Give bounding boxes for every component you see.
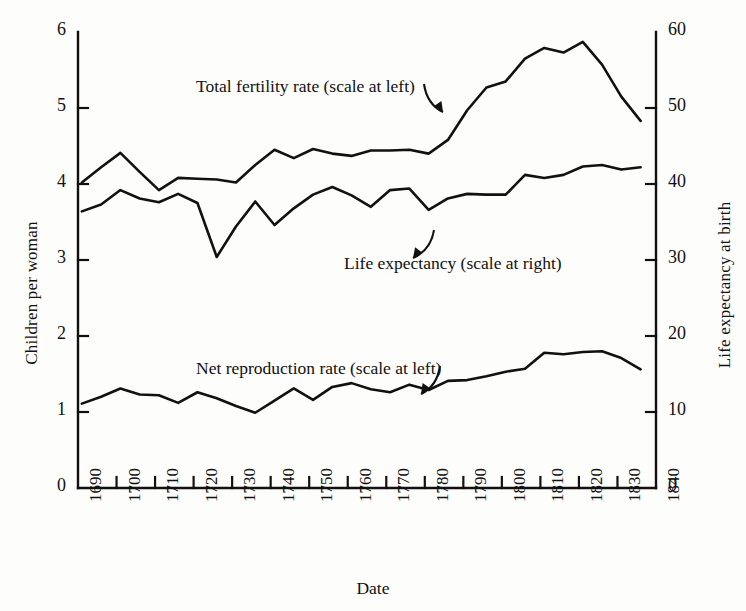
series-line-0	[82, 42, 641, 190]
chart-figure: Children per woman Life expectancy at bi…	[0, 0, 746, 611]
series-line-1	[82, 165, 641, 257]
plot-area	[0, 0, 746, 611]
annotation-arrows	[413, 84, 443, 394]
data-series	[82, 42, 641, 413]
axes	[78, 32, 656, 488]
series-line-2	[82, 351, 641, 413]
